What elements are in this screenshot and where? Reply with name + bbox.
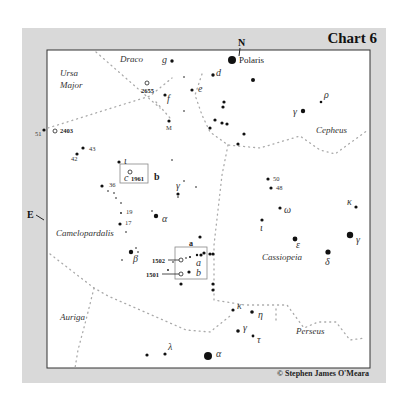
star-label: 43 bbox=[89, 145, 96, 152]
star-icon bbox=[145, 353, 148, 356]
star-icon bbox=[100, 184, 103, 187]
star-icon bbox=[213, 118, 216, 121]
star-label: κ bbox=[347, 196, 352, 207]
star-icon bbox=[228, 56, 236, 64]
star-icon bbox=[183, 110, 185, 112]
star-icon bbox=[236, 142, 239, 145]
deep-sky-object-icon bbox=[179, 272, 183, 276]
star-label: ι bbox=[260, 222, 263, 233]
star-icon bbox=[42, 128, 45, 131]
deep-sky-label: 1961 bbox=[131, 175, 144, 182]
star-icon bbox=[183, 180, 185, 182]
star-icon bbox=[118, 222, 121, 225]
deep-sky-label: 1502 bbox=[152, 257, 165, 264]
star-icon bbox=[320, 101, 323, 104]
star-icon bbox=[187, 270, 190, 273]
star-label: 51 bbox=[35, 130, 42, 137]
star-label: ε bbox=[296, 239, 300, 250]
star-icon bbox=[107, 190, 109, 192]
star-icon bbox=[269, 186, 272, 189]
constellation-label: Perseus bbox=[295, 326, 325, 336]
star-label: M bbox=[166, 124, 172, 131]
deep-sky-label: 2655 bbox=[141, 87, 155, 94]
star-icon bbox=[208, 252, 211, 255]
star-icon bbox=[170, 59, 173, 62]
star-icon bbox=[81, 146, 84, 149]
star-icon bbox=[190, 88, 193, 91]
star-icon bbox=[177, 196, 179, 198]
star-icon bbox=[195, 186, 197, 188]
star-icon bbox=[204, 352, 212, 360]
constellation-label: Cassiopeia bbox=[262, 252, 303, 262]
star-icon bbox=[172, 261, 174, 263]
star-icon bbox=[251, 78, 255, 82]
star-icon bbox=[301, 109, 305, 113]
star-label: λ bbox=[167, 341, 173, 352]
star-icon bbox=[220, 121, 223, 124]
east-tick bbox=[36, 215, 44, 220]
star-icon bbox=[154, 214, 158, 218]
star-label: δ bbox=[325, 256, 330, 267]
star-icon bbox=[221, 105, 224, 108]
deep-sky-label: 1501 bbox=[146, 271, 159, 278]
star-icon bbox=[202, 251, 205, 254]
star-label: ω bbox=[284, 204, 291, 215]
star-icon bbox=[163, 352, 166, 355]
star-label: 17 bbox=[125, 219, 132, 226]
star-icon bbox=[113, 192, 115, 194]
star-icon bbox=[347, 232, 353, 238]
star-icon bbox=[189, 256, 191, 258]
deep-sky-object-icon bbox=[145, 81, 149, 85]
star-icon bbox=[236, 329, 240, 333]
star-icon bbox=[135, 247, 137, 249]
star-icon bbox=[167, 269, 169, 271]
star-icon bbox=[266, 177, 269, 180]
star-label: 42 bbox=[71, 155, 78, 162]
star-icon bbox=[137, 251, 139, 253]
east-marker: E bbox=[27, 209, 34, 220]
star-label: b bbox=[196, 267, 201, 278]
star-icon bbox=[354, 205, 357, 208]
star-icon bbox=[179, 282, 182, 285]
deep-sky-object-icon bbox=[179, 258, 183, 262]
star-icon bbox=[208, 126, 211, 129]
star-label: Polaris bbox=[239, 55, 264, 65]
star-icon bbox=[211, 73, 214, 76]
misc-labels: c bbox=[124, 172, 129, 183]
star-icon bbox=[242, 132, 245, 135]
star-icon bbox=[278, 206, 281, 209]
star-icon bbox=[125, 231, 127, 233]
star-icon bbox=[252, 335, 255, 338]
star-map: N E DracoUrsaMajorCepheusCamelopardalisC… bbox=[0, 0, 401, 400]
star-icon bbox=[115, 197, 117, 199]
star-label: g bbox=[162, 54, 167, 65]
star-icon bbox=[196, 254, 198, 256]
star-label: c bbox=[124, 172, 129, 183]
star-icon bbox=[325, 249, 330, 254]
star-icon bbox=[167, 119, 170, 122]
star-icon bbox=[225, 122, 228, 125]
constellation-label: Major bbox=[59, 80, 83, 90]
star-icon bbox=[121, 259, 123, 261]
star-icon bbox=[117, 160, 120, 163]
star-icon bbox=[171, 159, 173, 161]
constellation-label: Cepheus bbox=[316, 125, 347, 135]
star-label: e bbox=[198, 83, 203, 94]
deep-sky-object-icon bbox=[128, 170, 132, 174]
star-icon bbox=[183, 76, 185, 78]
star-icon bbox=[250, 310, 254, 314]
constellation-label: Draco bbox=[119, 54, 143, 64]
star-icon bbox=[211, 282, 214, 285]
map-area bbox=[47, 50, 370, 368]
deep-sky-label: 2403 bbox=[60, 127, 74, 134]
star-label: 48 bbox=[276, 184, 283, 191]
star-icon bbox=[120, 212, 122, 214]
star-label: ρ bbox=[323, 89, 329, 100]
star-label: κ bbox=[237, 300, 242, 311]
star-label: 50 bbox=[273, 175, 280, 182]
star-icon bbox=[222, 100, 225, 103]
star-icon bbox=[120, 202, 122, 204]
constellation-label: Ursa bbox=[60, 68, 79, 78]
star-icon bbox=[211, 288, 214, 291]
star-label: 36 bbox=[109, 181, 116, 188]
